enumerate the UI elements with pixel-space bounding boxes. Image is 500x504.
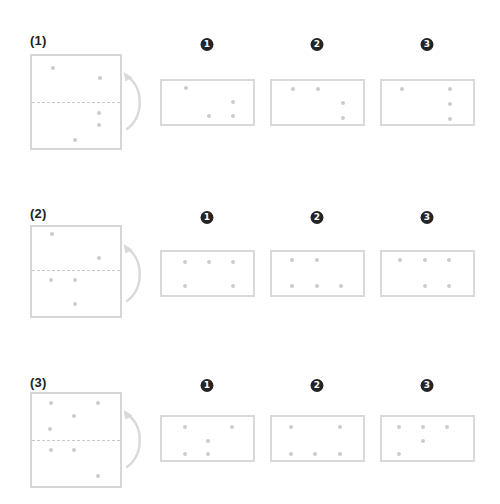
hole-dot bbox=[338, 425, 342, 429]
option-box-3[interactable] bbox=[380, 415, 475, 462]
hole-dot bbox=[184, 86, 188, 90]
option-box-2[interactable] bbox=[270, 79, 365, 126]
option-badge-2[interactable]: 2 bbox=[311, 211, 324, 224]
hole-dot bbox=[96, 474, 100, 478]
hole-dot bbox=[72, 448, 76, 452]
hole-dot bbox=[338, 452, 342, 456]
hole-dot bbox=[97, 256, 101, 260]
option-box-1[interactable] bbox=[160, 250, 255, 297]
hole-dot bbox=[231, 114, 235, 118]
hole-dot bbox=[447, 284, 451, 288]
option-box-1[interactable] bbox=[160, 79, 255, 126]
hole-dot bbox=[230, 425, 234, 429]
fold-direction-arrow bbox=[120, 238, 154, 310]
hole-dot bbox=[316, 87, 320, 91]
hole-dot bbox=[231, 284, 235, 288]
option-badge-1[interactable]: 1 bbox=[201, 211, 214, 224]
hole-dot bbox=[448, 87, 452, 91]
hole-dot bbox=[315, 284, 319, 288]
hole-dot bbox=[183, 284, 187, 288]
hole-dot bbox=[98, 76, 102, 80]
hole-dot bbox=[207, 114, 211, 118]
hole-dot bbox=[72, 414, 76, 418]
option-badge-3[interactable]: 3 bbox=[421, 38, 434, 51]
hole-dot bbox=[341, 101, 345, 105]
hole-dot bbox=[49, 401, 53, 405]
option-box-3[interactable] bbox=[380, 79, 475, 126]
option-box-3[interactable] bbox=[380, 250, 475, 297]
hole-dot bbox=[421, 425, 425, 429]
fold-direction-arrow bbox=[120, 404, 154, 476]
fold-crease-line bbox=[32, 440, 120, 441]
hole-dot bbox=[448, 117, 452, 121]
row-label-2: (2) bbox=[30, 207, 47, 220]
hole-dot bbox=[183, 425, 187, 429]
option-badge-1[interactable]: 1 bbox=[201, 38, 214, 51]
hole-dot bbox=[448, 102, 452, 106]
hole-dot bbox=[290, 284, 294, 288]
puzzle-sheet: (1)123(2)123(3)123 bbox=[0, 0, 500, 504]
hole-dot bbox=[206, 452, 210, 456]
hole-dot bbox=[97, 111, 101, 115]
option-badge-2[interactable]: 2 bbox=[311, 38, 324, 51]
hole-dot bbox=[398, 258, 402, 262]
hole-dot bbox=[73, 138, 77, 142]
hole-dot bbox=[48, 427, 52, 431]
hole-dot bbox=[289, 452, 293, 456]
hole-dot bbox=[313, 452, 317, 456]
hole-dot bbox=[400, 87, 404, 91]
hole-dot bbox=[289, 425, 293, 429]
option-box-2[interactable] bbox=[270, 250, 365, 297]
hole-dot bbox=[97, 123, 101, 127]
hole-dot bbox=[423, 258, 427, 262]
option-badge-2[interactable]: 2 bbox=[311, 379, 324, 392]
hole-dot bbox=[423, 284, 427, 288]
hole-dot bbox=[96, 401, 100, 405]
option-badge-1[interactable]: 1 bbox=[201, 379, 214, 392]
folded-paper-1 bbox=[30, 54, 122, 150]
hole-dot bbox=[49, 278, 53, 282]
fold-crease-line bbox=[32, 270, 120, 271]
hole-dot bbox=[341, 116, 345, 120]
hole-dot bbox=[183, 452, 187, 456]
hole-dot bbox=[447, 258, 451, 262]
hole-dot bbox=[445, 425, 449, 429]
option-badge-3[interactable]: 3 bbox=[421, 211, 434, 224]
folded-paper-3 bbox=[30, 392, 122, 488]
hole-dot bbox=[290, 258, 294, 262]
hole-dot bbox=[291, 87, 295, 91]
folded-paper-2 bbox=[30, 225, 122, 318]
hole-dot bbox=[183, 260, 187, 264]
hole-dot bbox=[231, 260, 235, 264]
fold-direction-arrow bbox=[120, 66, 154, 138]
option-badge-3[interactable]: 3 bbox=[421, 379, 434, 392]
hole-dot bbox=[73, 302, 77, 306]
row-label-3: (3) bbox=[30, 376, 47, 389]
hole-dot bbox=[339, 284, 343, 288]
hole-dot bbox=[397, 425, 401, 429]
hole-dot bbox=[73, 278, 77, 282]
hole-dot bbox=[50, 232, 54, 236]
hole-dot bbox=[421, 439, 425, 443]
row-label-1: (1) bbox=[30, 34, 47, 47]
hole-dot bbox=[207, 260, 211, 264]
hole-dot bbox=[206, 439, 210, 443]
hole-dot bbox=[315, 258, 319, 262]
option-box-2[interactable] bbox=[270, 415, 365, 462]
fold-crease-line bbox=[32, 102, 120, 103]
hole-dot bbox=[51, 66, 55, 70]
hole-dot bbox=[397, 452, 401, 456]
option-box-1[interactable] bbox=[160, 415, 255, 462]
hole-dot bbox=[231, 100, 235, 104]
hole-dot bbox=[49, 448, 53, 452]
